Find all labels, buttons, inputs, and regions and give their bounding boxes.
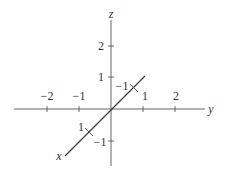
y-axis-label: y bbox=[207, 102, 214, 116]
y-tick-label: 2 bbox=[173, 89, 179, 103]
x-tick-label: 1 bbox=[78, 120, 84, 134]
y-tick-label: −2 bbox=[41, 89, 54, 103]
z-axis-label: z bbox=[108, 7, 114, 21]
z-tick-label: −1 bbox=[94, 135, 107, 149]
x-tick-neg1 bbox=[130, 84, 138, 92]
y-tick-label: 1 bbox=[142, 89, 148, 103]
3d-axes-diagram: −2 −1 1 2 2 1 −1 1 −1 y z x bbox=[0, 0, 227, 176]
y-tick-label: −1 bbox=[73, 89, 86, 103]
x-tick-label: −1 bbox=[116, 79, 129, 93]
x-axis-label: x bbox=[55, 149, 62, 163]
z-tick-label: 1 bbox=[98, 70, 104, 84]
z-tick-label: 2 bbox=[98, 39, 104, 53]
